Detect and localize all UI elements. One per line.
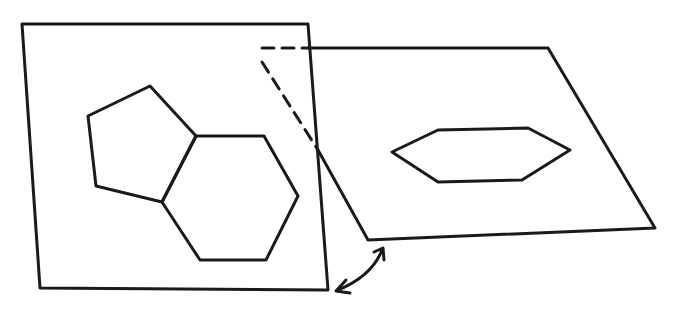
right-plane [308,48,655,240]
pentagon-ring [88,86,196,202]
diagram-canvas [0,0,681,314]
rotation-arrow-icon [336,248,384,293]
flat-hexagon [392,128,570,182]
left-plane [22,24,328,290]
hidden-edge-diagonal [262,62,318,150]
hexagon-ring [162,136,298,260]
